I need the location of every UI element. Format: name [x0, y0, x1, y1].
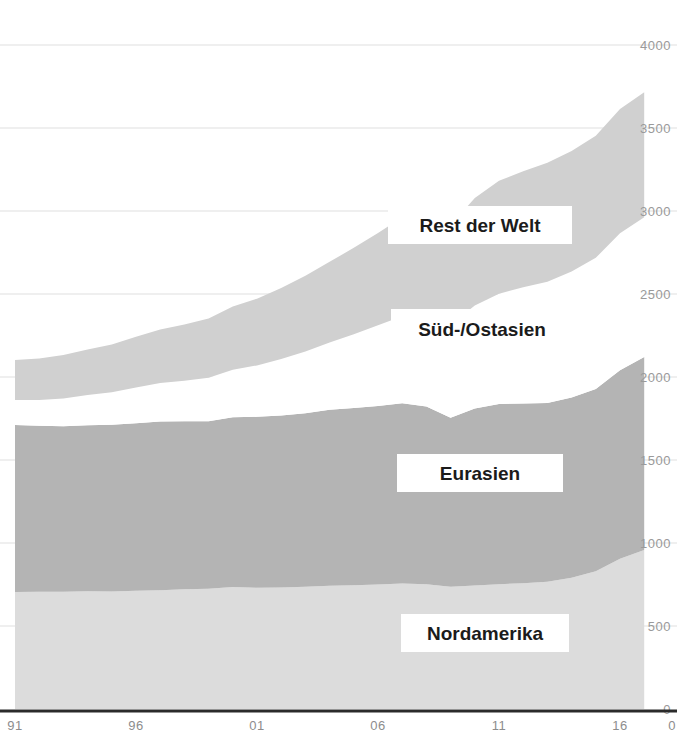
series-label-sued-ostasien: Süd-/Ostasien	[391, 309, 573, 348]
y-tick-1000: 1000	[640, 536, 671, 551]
y-tick-2000: 2000	[640, 370, 671, 385]
x-tick-11: 11	[492, 718, 507, 733]
x-tick-16: 16	[612, 718, 627, 733]
x-tick-extra: 0	[668, 718, 676, 733]
chart-canvas: 05001000150020002500300035004000 9196010…	[0, 0, 677, 743]
stacked-area-chart: 05001000150020002500300035004000 9196010…	[0, 0, 677, 743]
x-tick-06: 06	[370, 718, 385, 733]
series-label-text-sued-ostasien: Süd-/Ostasien	[418, 319, 546, 340]
x-tick-96: 96	[128, 718, 143, 733]
series-label-text-nordamerika: Nordamerika	[427, 623, 544, 644]
x-axis-tick-labels: 9196010611160	[7, 718, 676, 733]
y-axis-tick-labels: 05001000150020002500300035004000	[640, 38, 671, 717]
series-label-nordamerika: Nordamerika	[401, 614, 569, 652]
series-label-rest-der-welt: Rest der Welt	[388, 206, 572, 244]
y-tick-3000: 3000	[640, 204, 671, 219]
y-tick-4000: 4000	[640, 38, 671, 53]
series-label-text-eurasien: Eurasien	[440, 463, 520, 484]
y-tick-3500: 3500	[640, 121, 671, 136]
series-label-text-rest-der-welt: Rest der Welt	[419, 215, 541, 236]
series-label-eurasien: Eurasien	[397, 454, 563, 492]
y-tick-1500: 1500	[640, 453, 671, 468]
x-tick-01: 01	[249, 718, 264, 733]
x-tick-91: 91	[7, 718, 22, 733]
y-tick-2500: 2500	[640, 287, 671, 302]
y-tick-500: 500	[648, 619, 671, 634]
